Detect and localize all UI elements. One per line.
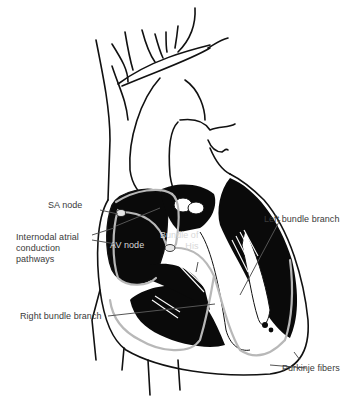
label-left-bundle-branch: Left bundle branch bbox=[264, 214, 339, 225]
superior-vena-cava bbox=[96, 40, 110, 200]
label-right-bundle-branch: Right bundle branch bbox=[20, 311, 102, 322]
label-bundle-of-his: Bundle of His bbox=[160, 230, 198, 252]
sa-node bbox=[117, 210, 126, 217]
label-purkinje-fibers: Purkinje fibers bbox=[282, 363, 340, 374]
heart-conduction-diagram: SA node Internodal atrial conduction pat… bbox=[0, 0, 354, 399]
label-av-node: AV node bbox=[110, 240, 144, 251]
label-sa-node: SA node bbox=[48, 200, 82, 211]
label-internodal-pathways: Internodal atrial conduction pathways bbox=[16, 232, 79, 265]
